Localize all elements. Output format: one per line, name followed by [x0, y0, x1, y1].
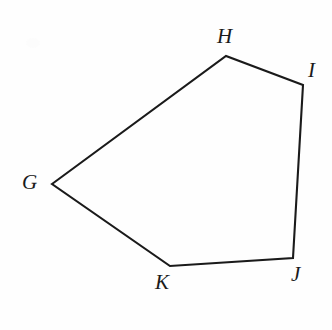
vertex-label-G: G	[22, 172, 37, 193]
vertex-label-I: I	[308, 60, 315, 81]
pentagon-outline	[52, 56, 303, 266]
geometry-figure-canvas: G H I J K	[0, 0, 332, 330]
vertex-label-K: K	[155, 272, 169, 293]
vertex-label-H: H	[217, 26, 232, 47]
vertex-label-J: J	[291, 264, 300, 285]
